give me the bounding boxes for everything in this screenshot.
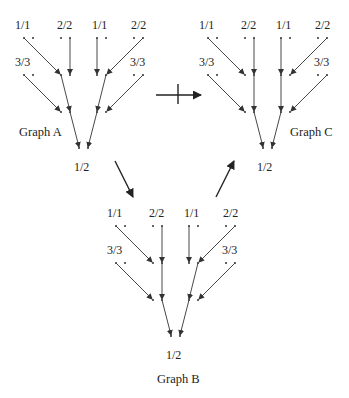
graph-c-label-2-2-right: 2/2	[315, 18, 330, 32]
graph-a-root-label: 1/2	[74, 160, 89, 174]
graph-a-label-1-1-right: 1/1	[92, 18, 107, 32]
graph-b: 1/1 2/2 1/1 2/2 3/3 3/3 1/2 Graph B	[107, 206, 238, 386]
graph-c-label-1-1-left: 1/1	[199, 18, 214, 32]
graph-b-label-1-1-left: 1/1	[107, 206, 122, 220]
graph-b-label-3-3-right: 3/3	[222, 243, 237, 257]
graph-c-label-3-3-left: 3/3	[199, 55, 214, 69]
arrow-b-to-c	[216, 161, 234, 197]
arrow-a-to-b	[115, 161, 133, 197]
graph-a: 1/1 2/2 1/1 2/2 3/3 3/3 1/2 Graph A	[15, 18, 146, 174]
graph-c-caption: Graph C	[290, 125, 333, 139]
graph-a-caption: Graph A	[19, 125, 62, 139]
graph-c-root-label: 1/2	[257, 160, 272, 174]
graph-c: 1/1 2/2 1/1 2/2 3/3 3/3 1/2 Graph C	[199, 18, 333, 174]
graph-c-label-1-1-right: 1/1	[276, 18, 291, 32]
graph-a-label-2-2-right: 2/2	[131, 18, 146, 32]
graph-b-caption: Graph B	[157, 372, 200, 386]
graph-b-label-2-2-left: 2/2	[149, 206, 164, 220]
graph-a-label-3-3-right: 3/3	[130, 55, 145, 69]
graph-b-label-3-3-left: 3/3	[107, 243, 122, 257]
graph-a-label-3-3-left: 3/3	[15, 55, 30, 69]
graph-b-edges	[116, 226, 235, 335]
arrow-a-to-c-negated	[156, 84, 201, 104]
diagram-canvas: 1/1 2/2 1/1 2/2 3/3 3/3 1/2 Graph A	[0, 0, 349, 398]
graph-a-label-2-2-left: 2/2	[57, 18, 72, 32]
graph-b-label-1-1-right: 1/1	[184, 206, 199, 220]
graph-b-root-label: 1/2	[166, 348, 181, 362]
graph-b-label-2-2-right: 2/2	[223, 206, 238, 220]
graph-b-nodes	[115, 225, 236, 337]
graph-a-label-1-1-left: 1/1	[15, 18, 30, 32]
graph-c-label-3-3-right: 3/3	[314, 55, 329, 69]
graph-c-label-2-2-left: 2/2	[241, 18, 256, 32]
